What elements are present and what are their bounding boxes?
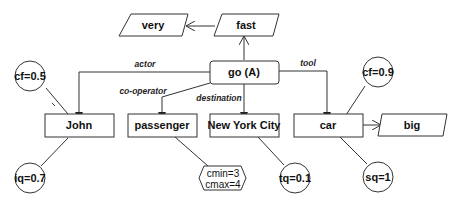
node-label-cf-car: cf=0.9 [362,66,394,78]
link-iq-john [41,138,68,166]
node-label-passenger: passenger [134,119,190,131]
node-big[interactable]: big [378,114,447,136]
node-cf-john[interactable]: cf=0.5 [14,61,46,91]
node-label-tq-nyc: tq=0.1 [279,172,311,184]
edge-tool [279,71,327,119]
edge-label-destination: destination [196,93,241,103]
link-cf-john-pad [52,103,55,106]
node-nyc[interactable]: New York City [208,114,282,137]
node-label-nyc: New York City [208,119,282,131]
node-label-very: very [142,19,166,31]
edge-label-co-operator: co-operator [119,86,167,96]
link-cf-john [46,88,68,114]
node-go[interactable]: go (A) [210,61,279,84]
node-cardinality[interactable]: cmin=3 cmax=4 [199,166,246,190]
node-very[interactable]: very [119,14,188,36]
link-tq-nyc [258,137,284,165]
link-passenger-card [175,137,208,166]
edge-label-tool: tool [300,58,316,68]
node-label-fast: fast [236,19,256,31]
node-iq-john[interactable]: iq=0.7 [14,163,46,193]
node-label-sq-car: sq=1 [365,171,390,183]
link-sq-car [340,137,367,164]
node-label-cmax: cmax=4 [205,179,241,190]
node-car[interactable]: car [294,114,363,137]
edge-label-actor: actor [135,59,156,69]
link-cf-car [346,86,365,115]
node-label-go: go (A) [228,66,260,78]
node-fast[interactable]: fast [214,14,279,36]
node-label-car: car [320,119,337,131]
node-tq-nyc[interactable]: tq=0.1 [279,163,311,193]
node-label-iq-john: iq=0.7 [14,172,46,184]
node-sq-car[interactable]: sq=1 [363,162,393,192]
node-label-cmin: cmin=3 [207,168,240,179]
node-label-cf-john: cf=0.5 [14,70,46,82]
node-cf-car[interactable]: cf=0.9 [362,57,394,87]
node-passenger[interactable]: passenger [128,114,197,137]
semantic-network-diagram: actor co-operator destination tool very … [0,0,460,208]
node-john[interactable]: John [45,114,114,137]
node-label-big: big [404,119,421,131]
node-label-john: John [66,119,93,131]
